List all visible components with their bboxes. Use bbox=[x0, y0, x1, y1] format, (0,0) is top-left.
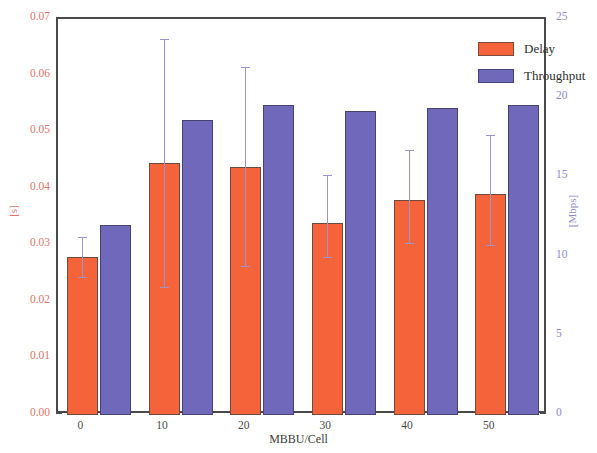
y-axis-right-tick-label: 15 bbox=[556, 168, 568, 180]
x-axis-tick-label: 50 bbox=[464, 419, 514, 431]
x-axis-title: MBBU/Cell bbox=[0, 432, 597, 447]
x-axis-tick-label: 0 bbox=[55, 419, 105, 431]
y-axis-left-tick-label: 0.03 bbox=[8, 236, 50, 248]
legend-label: Throughput bbox=[524, 68, 585, 84]
error-bar-delay bbox=[67, 237, 98, 278]
error-bar-cap-bottom bbox=[323, 257, 332, 258]
x-axis-tick-label: 30 bbox=[300, 419, 350, 431]
error-bar-stem bbox=[164, 39, 165, 288]
error-bar-stem bbox=[409, 150, 410, 243]
y-axis-left-tick-label: 0.04 bbox=[8, 180, 50, 192]
error-bar-cap-top bbox=[486, 135, 495, 136]
legend-swatch bbox=[478, 69, 514, 83]
error-bar-stem bbox=[490, 135, 491, 246]
error-bar-delay bbox=[149, 39, 180, 288]
error-bar-cap-top bbox=[160, 39, 169, 40]
y-axis-left-tick-label: 0.07 bbox=[8, 10, 50, 22]
x-axis-tick-label: 40 bbox=[382, 419, 432, 431]
y-axis-right-title: [Mbps] bbox=[566, 195, 578, 227]
error-bar-stem bbox=[245, 67, 246, 267]
bar-delay bbox=[67, 257, 98, 415]
bar-throughput bbox=[100, 225, 131, 415]
y-axis-right-tick-label: 5 bbox=[556, 327, 562, 339]
y-axis-left-tick-label: 0.00 bbox=[8, 406, 50, 418]
error-bar-delay bbox=[394, 150, 425, 243]
chart-legend: DelayThroughput bbox=[478, 41, 597, 95]
x-axis-tick-label: 20 bbox=[219, 419, 269, 431]
legend-item: Throughput bbox=[478, 68, 597, 84]
bar-throughput bbox=[182, 120, 213, 415]
error-bar-delay bbox=[230, 67, 261, 267]
error-bar-cap-bottom bbox=[160, 287, 169, 288]
error-bar-cap-bottom bbox=[241, 266, 250, 267]
error-bar-cap-bottom bbox=[405, 243, 414, 244]
chart-container: [s] [Mbps] MBBU/Cell 0.000.010.020.030.0… bbox=[0, 0, 597, 453]
x-axis-tick-label: 10 bbox=[137, 419, 187, 431]
error-bar-cap-top bbox=[405, 150, 414, 151]
y-axis-left-title: [s] bbox=[7, 205, 19, 217]
error-bar-cap-top bbox=[78, 237, 87, 238]
y-axis-right-tick-label: 10 bbox=[556, 248, 568, 260]
bar-throughput bbox=[508, 105, 539, 415]
error-bar-delay bbox=[312, 175, 343, 259]
y-axis-left-tick-mark bbox=[56, 413, 62, 414]
y-axis-left-tick-label: 0.05 bbox=[8, 123, 50, 135]
error-bar-cap-top bbox=[323, 175, 332, 176]
error-bar-stem bbox=[82, 237, 83, 278]
legend-label: Delay bbox=[524, 41, 555, 57]
bar-throughput bbox=[345, 111, 376, 415]
y-axis-left-tick-label: 0.01 bbox=[8, 349, 50, 361]
bar-throughput bbox=[263, 105, 294, 415]
error-bar-cap-bottom bbox=[486, 245, 495, 246]
error-bar-delay bbox=[475, 135, 506, 246]
error-bar-cap-top bbox=[241, 67, 250, 68]
y-axis-right-tick-label: 25 bbox=[556, 10, 568, 22]
error-bar-cap-bottom bbox=[78, 277, 87, 278]
bar-throughput bbox=[427, 108, 458, 415]
legend-swatch bbox=[478, 42, 514, 56]
legend-item: Delay bbox=[478, 41, 597, 57]
y-axis-left-tick-label: 0.02 bbox=[8, 293, 50, 305]
y-axis-right-tick-mark bbox=[540, 413, 546, 414]
y-axis-left-tick-label: 0.06 bbox=[8, 67, 50, 79]
y-axis-right-tick-label: 0 bbox=[556, 406, 562, 418]
plot-area: DelayThroughput bbox=[56, 17, 546, 413]
error-bar-stem bbox=[327, 175, 328, 259]
